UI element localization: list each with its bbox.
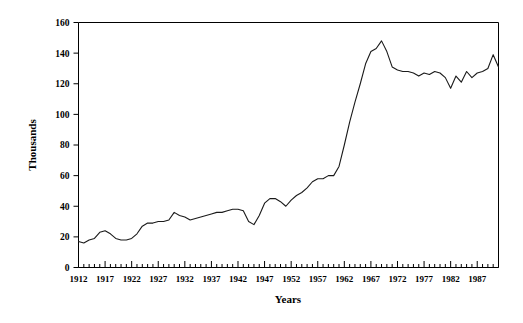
y-tick-label: 40 xyxy=(60,202,70,212)
y-tick-label: 140 xyxy=(55,49,70,59)
y-tick-label: 0 xyxy=(65,263,70,273)
x-tick-label: 1922 xyxy=(123,274,142,284)
x-tick-label: 1987 xyxy=(468,274,487,284)
y-tick-label: 20 xyxy=(60,232,70,242)
line-chart: 020406080100120140160 191219171922192719… xyxy=(0,0,523,323)
y-tick-label: 80 xyxy=(60,140,70,150)
x-tick-label: 1947 xyxy=(256,274,275,284)
x-tick-label: 1937 xyxy=(202,274,221,284)
x-tick-label: 1982 xyxy=(442,274,461,284)
x-tick-label: 1977 xyxy=(415,274,434,284)
y-tick-label: 100 xyxy=(55,110,70,120)
x-tick-label: 1957 xyxy=(309,274,328,284)
x-tick-label: 1912 xyxy=(70,274,89,284)
x-tick-label: 1967 xyxy=(362,274,381,284)
y-tick-label: 120 xyxy=(55,79,70,89)
x-tick-label: 1927 xyxy=(149,274,168,284)
x-tick-label: 1942 xyxy=(229,274,248,284)
x-tick-label: 1932 xyxy=(176,274,195,284)
x-tick-label: 1952 xyxy=(282,274,301,284)
x-tick-label: 1962 xyxy=(335,274,354,284)
y-tick-label: 160 xyxy=(55,18,70,28)
y-axis-title: Thousands xyxy=(26,119,38,171)
x-axis-title: Years xyxy=(275,293,302,305)
x-tick-label: 1917 xyxy=(96,274,115,284)
x-tick-label: 1972 xyxy=(388,274,407,284)
chart-figure: 020406080100120140160 191219171922192719… xyxy=(0,0,523,323)
y-tick-label: 60 xyxy=(60,171,70,181)
